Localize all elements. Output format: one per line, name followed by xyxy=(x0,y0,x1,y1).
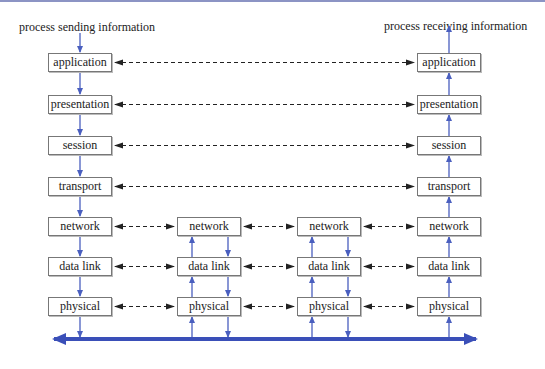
router1-data-link-layer: data link xyxy=(177,257,241,276)
sender-presentation-layer: presentation xyxy=(48,95,112,114)
receiver-session-layer: session xyxy=(417,136,481,155)
router2-physical-layer: physical xyxy=(297,297,361,316)
router2-network-layer: network xyxy=(297,217,361,236)
osi-model-diagram: process sending information process rece… xyxy=(0,0,545,369)
receiver-transport-layer: transport xyxy=(417,177,481,196)
sender-physical-layer: physical xyxy=(48,297,112,316)
router1-physical-layer: physical xyxy=(177,297,241,316)
sender-data-link-layer: data link xyxy=(48,257,112,276)
receiver-physical-layer: physical xyxy=(417,297,481,316)
receiver-application-layer: application xyxy=(417,53,481,72)
receiver-network-layer: network xyxy=(417,217,481,236)
sender-transport-layer: transport xyxy=(48,177,112,196)
receiver-presentation-layer: presentation xyxy=(417,95,481,114)
sender-network-layer: network xyxy=(48,217,112,236)
sender-session-layer: session xyxy=(48,136,112,155)
sender-application-layer: application xyxy=(48,53,112,72)
router2-data-link-layer: data link xyxy=(297,257,361,276)
receiver-data-link-layer: data link xyxy=(417,257,481,276)
router1-network-layer: network xyxy=(177,217,241,236)
